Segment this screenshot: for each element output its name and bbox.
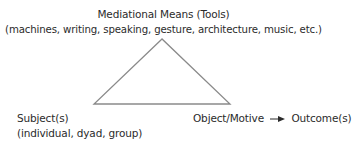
mediational-means-title: Mediational Means (Tools) bbox=[0, 8, 327, 21]
mediation-triangle bbox=[94, 39, 230, 104]
subject-title: Subject(s) bbox=[17, 112, 68, 125]
activity-triangle-diagram: Mediational Means (Tools) (machines, wri… bbox=[0, 0, 357, 148]
subject-examples: (individual, dyad, group) bbox=[17, 127, 142, 140]
mediational-means-examples: (machines, writing, speaking, gesture, a… bbox=[0, 23, 327, 36]
object-outcome-group: Object/Motive Outcome(s) bbox=[193, 112, 351, 125]
outcome-label: Outcome(s) bbox=[291, 112, 351, 124]
object-motive-label: Object/Motive bbox=[193, 112, 264, 124]
arrow-right-icon bbox=[269, 115, 286, 123]
